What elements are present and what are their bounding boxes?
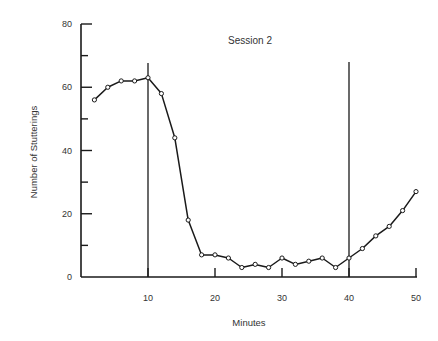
data-point-marker: [307, 259, 311, 263]
data-point-marker: [374, 234, 378, 238]
data-point-marker: [334, 265, 338, 269]
data-point-marker: [360, 246, 364, 250]
data-point-marker: [200, 253, 204, 257]
y-tick-label: 60: [62, 82, 72, 92]
x-tick-label: 30: [277, 293, 287, 303]
data-point-marker: [133, 79, 137, 83]
axes: 0204060801020304050: [62, 19, 421, 303]
x-tick-label: 40: [344, 293, 354, 303]
data-point-marker: [320, 256, 324, 260]
data-point-marker: [387, 224, 391, 228]
y-axis-title: Number of Stutterings: [28, 106, 39, 199]
line-chart: 0204060801020304050 Session 2 Minutes Nu…: [0, 0, 438, 341]
data-point-marker: [226, 256, 230, 260]
data-series: [92, 76, 418, 270]
data-point-marker: [119, 79, 123, 83]
data-point-marker: [240, 265, 244, 269]
data-point-marker: [159, 91, 163, 95]
y-tick-label: 0: [67, 272, 72, 282]
x-tick-label: 10: [143, 293, 153, 303]
x-tick-label: 50: [411, 293, 421, 303]
data-point-marker: [280, 256, 284, 260]
data-point-marker: [186, 218, 190, 222]
x-axis-title: Minutes: [232, 317, 266, 328]
data-point-marker: [173, 136, 177, 140]
data-point-marker: [253, 262, 257, 266]
data-point-marker: [414, 190, 418, 194]
data-point-marker: [106, 85, 110, 89]
data-point-marker: [401, 208, 405, 212]
y-tick-label: 40: [62, 146, 72, 156]
data-point-marker: [267, 265, 271, 269]
x-tick-label: 20: [210, 293, 220, 303]
y-tick-label: 20: [62, 209, 72, 219]
chart-title: Session 2: [228, 35, 272, 46]
series-line: [94, 78, 416, 268]
data-point-marker: [293, 262, 297, 266]
data-point-marker: [347, 256, 351, 260]
reference-lines: [148, 62, 349, 277]
y-tick-label: 80: [62, 19, 72, 29]
data-point-marker: [92, 98, 96, 102]
data-point-marker: [146, 76, 150, 80]
data-point-marker: [213, 253, 217, 257]
